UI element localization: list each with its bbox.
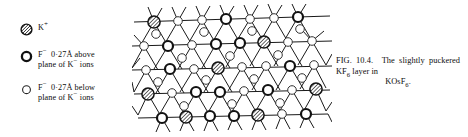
caption-figure-number: FIG. 10.4.	[336, 56, 373, 65]
figure-caption: FIG. 10.4. The slightly puckered KF6 lay…	[336, 56, 460, 88]
node-fluorine-below	[154, 78, 163, 87]
node-fluorine-below	[190, 65, 199, 74]
node-fluorine-below	[284, 38, 293, 47]
node-fluorine-below	[270, 14, 279, 23]
legend-item-potassium: K+	[14, 22, 136, 36]
node-potassium	[212, 62, 224, 74]
lattice-svg	[132, 2, 332, 135]
node-potassium	[148, 16, 160, 28]
node-potassium	[310, 83, 322, 95]
node-fluorine-above	[221, 14, 231, 24]
legend-label-line2: plane of K− ions	[38, 60, 95, 70]
node-fluorine-below	[178, 54, 187, 63]
node-fluorine-above	[191, 87, 201, 97]
hatched-circle-icon	[14, 22, 38, 36]
node-fluorine-above	[235, 38, 245, 48]
node-fluorine-above	[263, 85, 273, 95]
node-fluorine-above	[229, 111, 239, 121]
node-fluorine-below	[250, 75, 259, 84]
node-fluorine-below	[226, 52, 235, 61]
node-potassium	[180, 111, 192, 123]
node-fluorine-above	[165, 64, 175, 74]
figure-root: K+ F− 0·27Å above plane of K− ions F−	[0, 0, 468, 137]
node-fluorine-below	[310, 61, 319, 70]
charge-sup: −	[43, 80, 47, 88]
node-fluorine-below	[308, 37, 317, 46]
node-fluorine-above	[157, 113, 167, 123]
legend-item-fluorine-above: F− 0·27Å above plane of K− ions	[14, 49, 136, 69]
node-fluorine-below	[202, 76, 211, 85]
node-fluorine-below	[296, 25, 305, 34]
legend-label-fluorine-above: F− 0·27Å above plane of K− ions	[38, 49, 95, 69]
node-fluorine-below	[274, 51, 283, 60]
node-fluorine-below	[278, 110, 287, 119]
thick-open-circle-icon	[14, 49, 38, 63]
node-fluorine-below	[228, 100, 237, 109]
node-fluorine-below	[198, 16, 207, 25]
node-fluorine-above	[215, 87, 225, 97]
legend-label-potassium: K+	[38, 22, 48, 33]
node-fluorine-below	[174, 17, 183, 26]
node-fluorine-below	[238, 63, 247, 72]
legend-label-line2: plane of K− ions	[38, 93, 95, 103]
node-fluorine-below	[140, 42, 149, 51]
charge-sup: +	[44, 20, 48, 28]
node-potassium	[258, 36, 270, 48]
thin-open-circle-icon	[14, 82, 38, 96]
node-potassium	[252, 109, 264, 121]
node-fluorine-below	[298, 74, 307, 83]
node-fluorine-below	[246, 15, 255, 24]
node-fluorine-below	[168, 89, 177, 98]
node-fluorine-below	[288, 86, 297, 95]
node-fluorine-above	[163, 41, 173, 51]
node-fluorine-below	[276, 99, 285, 108]
node-fluorine-above	[205, 111, 215, 121]
caption-text-2: layer in	[350, 67, 378, 76]
node-fluorine-below	[180, 102, 189, 111]
legend-label-fluorine-below: F− 0·27Å below plane of K− ions	[38, 82, 95, 102]
node-fluorine-below	[200, 28, 209, 37]
node-fluorine-above	[301, 109, 311, 119]
caption-compound: KOsF6.	[336, 77, 460, 88]
node-fluorine-above	[285, 61, 295, 71]
node-fluorine-below	[248, 27, 257, 36]
node-fluorine-below	[142, 66, 151, 75]
node-fluorine-above	[293, 12, 303, 22]
node-fluorine-below	[188, 41, 197, 50]
node-fluorine-below	[240, 87, 249, 96]
charge-sup: −	[43, 47, 47, 55]
lattice-diagram	[132, 2, 332, 135]
legend-item-fluorine-below: F− 0·27Å below plane of K− ions	[14, 82, 136, 102]
node-fluorine-below	[262, 62, 271, 71]
node-potassium	[142, 88, 154, 100]
legend: K+ F− 0·27Å above plane of K− ions F−	[14, 22, 136, 115]
node-fluorine-below	[152, 30, 161, 39]
node-fluorine-above	[211, 39, 221, 49]
